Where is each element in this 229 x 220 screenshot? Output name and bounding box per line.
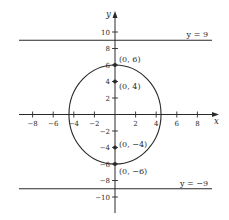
y-tick-label: −2	[100, 128, 110, 136]
x-tick-label: 2	[133, 120, 137, 128]
y-axis-label: y	[105, 9, 111, 19]
point-label: (0, −4)	[119, 140, 147, 149]
line-equation-label: y = −9	[179, 179, 208, 188]
point-marker	[113, 63, 117, 67]
y-tick-label: 10	[101, 29, 110, 37]
point-marker	[113, 162, 117, 166]
y-tick-label: −4	[100, 144, 111, 152]
y-axis-arrow-icon	[113, 11, 118, 18]
x-tick-label: −6	[48, 120, 59, 128]
x-tick-label: 6	[175, 120, 180, 128]
x-tick-label: 8	[195, 120, 199, 128]
y-tick-label: 8	[106, 45, 110, 53]
point-marker	[113, 146, 117, 150]
point-label: (0, 4)	[119, 82, 141, 91]
point-marker	[113, 80, 117, 84]
point-label: (0, −6)	[119, 167, 147, 176]
ellipse-diagram: y = 9y = −9 xy−8−6−4−22468108642−2−4−6−8…	[0, 0, 229, 220]
point-label: (0, 6)	[119, 55, 141, 64]
x-tick-label: −8	[27, 120, 37, 128]
y-tick-label: −8	[100, 177, 110, 185]
y-tick-label: −10	[95, 194, 110, 202]
x-axis-label: x	[214, 116, 219, 126]
y-tick-label: 2	[106, 95, 110, 103]
line-equation-label: y = 9	[186, 30, 208, 39]
x-tick-label: 4	[154, 120, 159, 128]
x-tick-label: −2	[89, 120, 99, 128]
labeled-points: (0, 6)(0, 4)(0, −4)(0, −6)	[113, 55, 147, 176]
y-tick-label: 4	[106, 78, 111, 86]
